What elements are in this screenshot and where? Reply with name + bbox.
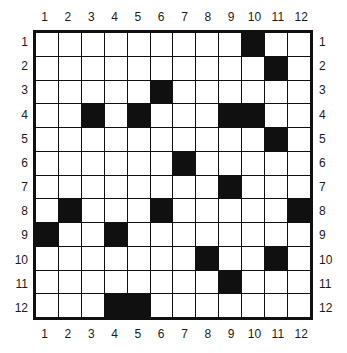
grid-cell-r7-c6[interactable] [151, 176, 173, 199]
grid-cell-r10-c5[interactable] [128, 247, 150, 270]
grid-cell-r6-c3[interactable] [82, 152, 104, 175]
grid-cell-r8-c10[interactable] [242, 199, 264, 222]
grid-cell-r4-c11[interactable] [265, 104, 287, 127]
grid-cell-r10-c3[interactable] [82, 247, 104, 270]
grid-cell-r6-c12[interactable] [288, 152, 310, 175]
grid-cell-r7-c12[interactable] [288, 176, 310, 199]
grid-cell-r1-c10[interactable] [242, 33, 264, 56]
grid-cell-r5-c12[interactable] [288, 128, 310, 151]
grid-cell-r7-c5[interactable] [128, 176, 150, 199]
grid-cell-r3-c8[interactable] [196, 81, 218, 104]
grid-cell-r1-c8[interactable] [196, 33, 218, 56]
grid-cell-r12-c9[interactable] [219, 294, 241, 317]
grid-cell-r7-c9[interactable] [219, 176, 241, 199]
grid-cell-r2-c8[interactable] [196, 57, 218, 80]
grid-cell-r6-c5[interactable] [128, 152, 150, 175]
grid-cell-r4-c7[interactable] [173, 104, 195, 127]
grid-cell-r6-c7[interactable] [173, 152, 195, 175]
puzzle-grid[interactable] [33, 30, 313, 320]
grid-cell-r12-c8[interactable] [196, 294, 218, 317]
grid-cell-r11-c10[interactable] [242, 271, 264, 294]
grid-cell-r1-c11[interactable] [265, 33, 287, 56]
grid-cell-r1-c5[interactable] [128, 33, 150, 56]
grid-cell-r3-c10[interactable] [242, 81, 264, 104]
grid-cell-r11-c6[interactable] [151, 271, 173, 294]
grid-cell-r6-c2[interactable] [59, 152, 81, 175]
grid-cell-r10-c6[interactable] [151, 247, 173, 270]
grid-cell-r3-c9[interactable] [219, 81, 241, 104]
grid-cell-r9-c2[interactable] [59, 223, 81, 246]
grid-cell-r7-c2[interactable] [59, 176, 81, 199]
grid-cell-r3-c5[interactable] [128, 81, 150, 104]
grid-cell-r4-c5[interactable] [128, 104, 150, 127]
grid-cell-r5-c5[interactable] [128, 128, 150, 151]
grid-cell-r6-c9[interactable] [219, 152, 241, 175]
grid-cell-r11-c8[interactable] [196, 271, 218, 294]
grid-cell-r4-c4[interactable] [105, 104, 127, 127]
grid-cell-r11-c4[interactable] [105, 271, 127, 294]
grid-cell-r9-c12[interactable] [288, 223, 310, 246]
grid-cell-r1-c12[interactable] [288, 33, 310, 56]
grid-cell-r5-c7[interactable] [173, 128, 195, 151]
grid-cell-r8-c12[interactable] [288, 199, 310, 222]
grid-cell-r12-c7[interactable] [173, 294, 195, 317]
grid-cell-r8-c7[interactable] [173, 199, 195, 222]
grid-cell-r5-c8[interactable] [196, 128, 218, 151]
grid-cell-r2-c11[interactable] [265, 57, 287, 80]
grid-cell-r5-c3[interactable] [82, 128, 104, 151]
grid-cell-r11-c3[interactable] [82, 271, 104, 294]
grid-cell-r10-c9[interactable] [219, 247, 241, 270]
grid-cell-r5-c1[interactable] [36, 128, 58, 151]
grid-cell-r12-c1[interactable] [36, 294, 58, 317]
grid-cell-r4-c2[interactable] [59, 104, 81, 127]
grid-cell-r3-c6[interactable] [151, 81, 173, 104]
grid-cell-r2-c1[interactable] [36, 57, 58, 80]
grid-cell-r2-c9[interactable] [219, 57, 241, 80]
grid-cell-r1-c3[interactable] [82, 33, 104, 56]
grid-cell-r8-c6[interactable] [151, 199, 173, 222]
grid-cell-r4-c12[interactable] [288, 104, 310, 127]
grid-cell-r9-c3[interactable] [82, 223, 104, 246]
grid-cell-r1-c2[interactable] [59, 33, 81, 56]
grid-cell-r7-c10[interactable] [242, 176, 264, 199]
grid-cell-r3-c3[interactable] [82, 81, 104, 104]
grid-cell-r4-c3[interactable] [82, 104, 104, 127]
grid-cell-r3-c12[interactable] [288, 81, 310, 104]
grid-cell-r12-c6[interactable] [151, 294, 173, 317]
grid-cell-r12-c5[interactable] [128, 294, 150, 317]
grid-cell-r10-c2[interactable] [59, 247, 81, 270]
grid-cell-r8-c5[interactable] [128, 199, 150, 222]
grid-cell-r12-c2[interactable] [59, 294, 81, 317]
grid-cell-r5-c10[interactable] [242, 128, 264, 151]
grid-cell-r11-c1[interactable] [36, 271, 58, 294]
grid-cell-r3-c11[interactable] [265, 81, 287, 104]
grid-cell-r9-c11[interactable] [265, 223, 287, 246]
grid-cell-r8-c4[interactable] [105, 199, 127, 222]
grid-cell-r11-c11[interactable] [265, 271, 287, 294]
grid-cell-r9-c7[interactable] [173, 223, 195, 246]
grid-cell-r4-c9[interactable] [219, 104, 241, 127]
grid-cell-r2-c3[interactable] [82, 57, 104, 80]
grid-cell-r9-c1[interactable] [36, 223, 58, 246]
grid-cell-r12-c12[interactable] [288, 294, 310, 317]
grid-cell-r1-c1[interactable] [36, 33, 58, 56]
grid-cell-r2-c7[interactable] [173, 57, 195, 80]
grid-cell-r10-c7[interactable] [173, 247, 195, 270]
grid-cell-r11-c12[interactable] [288, 271, 310, 294]
grid-cell-r9-c6[interactable] [151, 223, 173, 246]
grid-cell-r2-c6[interactable] [151, 57, 173, 80]
grid-cell-r6-c6[interactable] [151, 152, 173, 175]
grid-cell-r2-c10[interactable] [242, 57, 264, 80]
grid-cell-r7-c4[interactable] [105, 176, 127, 199]
grid-cell-r12-c4[interactable] [105, 294, 127, 317]
grid-cell-r6-c8[interactable] [196, 152, 218, 175]
grid-cell-r2-c2[interactable] [59, 57, 81, 80]
grid-cell-r8-c9[interactable] [219, 199, 241, 222]
grid-cell-r11-c2[interactable] [59, 271, 81, 294]
grid-cell-r8-c8[interactable] [196, 199, 218, 222]
grid-cell-r6-c11[interactable] [265, 152, 287, 175]
grid-cell-r3-c1[interactable] [36, 81, 58, 104]
grid-cell-r5-c6[interactable] [151, 128, 173, 151]
grid-cell-r10-c11[interactable] [265, 247, 287, 270]
grid-cell-r5-c9[interactable] [219, 128, 241, 151]
